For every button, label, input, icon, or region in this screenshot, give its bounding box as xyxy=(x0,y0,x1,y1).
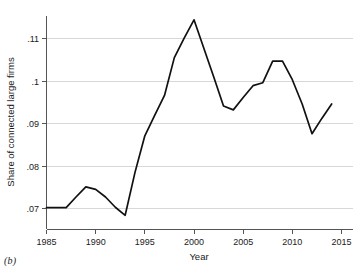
y-tick-label-0: .11 xyxy=(27,34,39,44)
panel-caption: (b) xyxy=(4,255,16,266)
data-series-line xyxy=(47,20,332,216)
x-tick-label-2: 1995 xyxy=(135,237,155,247)
gridlines xyxy=(47,39,353,209)
line-chart: .11 .1 .09 .08 .07 Share of connected la… xyxy=(0,0,363,280)
x-axis: 1985 1990 1995 2000 2005 2010 2015 Year xyxy=(36,230,353,263)
x-tick-label-5: 2010 xyxy=(282,237,302,247)
y-tick-label-2: .09 xyxy=(26,119,39,129)
y-axis: .11 .1 .09 .08 .07 Share of connected la… xyxy=(5,16,47,229)
x-tick-label-0: 1985 xyxy=(36,237,56,247)
y-axis-title: Share of connected large firms xyxy=(5,57,16,187)
x-tick-label-4: 2005 xyxy=(233,237,253,247)
figure-panel-b: .11 .1 .09 .08 .07 Share of connected la… xyxy=(0,0,363,280)
x-tick-label-6: 2015 xyxy=(331,237,351,247)
x-tick-label-3: 2000 xyxy=(184,237,204,247)
y-tick-label-4: .07 xyxy=(26,204,39,214)
x-axis-title: Year xyxy=(189,251,208,262)
x-tick-label-1: 1990 xyxy=(86,237,106,247)
y-tick-label-3: .08 xyxy=(26,162,39,172)
y-tick-label-1: .1 xyxy=(31,77,39,87)
